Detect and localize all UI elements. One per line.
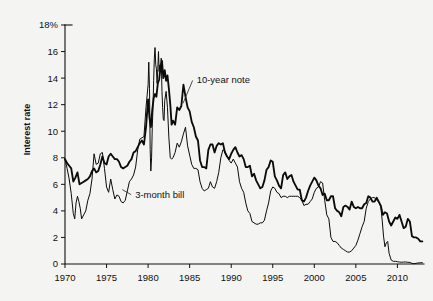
x-tick-label: 1995 [262,272,283,283]
y-axis-ticks: 024681012141618% [39,19,65,269]
x-tick-label: 1980 [138,272,159,283]
y-tick-label: 10 [47,126,58,137]
y-tick-label: 2 [53,232,58,243]
y-tick-label: 4 [53,205,58,216]
x-tick-label: 1970 [54,272,75,283]
x-tick-label: 2010 [387,272,408,283]
x-tick-label: 2000 [304,272,325,283]
y-tick-label: 14 [47,73,58,84]
interest-rate-chart-figure: 024681012141618% 19701975198019851990199… [0,0,433,301]
x-tick-label: 2005 [345,272,366,283]
y-tick-label: 16 [47,46,58,57]
x-axis-ticks: 197019751980198519901995200020052010 [54,264,408,283]
y-tick-label: 8 [53,152,58,163]
series-line-10-year-note [65,61,422,242]
x-tick-label: 1985 [179,272,200,283]
axes [65,25,424,264]
y-axis-title: Interest rate [22,104,32,156]
y-tick-label: 6 [53,179,58,190]
y-tick-label: 12 [47,99,58,110]
annotation-label: 10-year note [197,74,250,85]
y-tick-label: 18% [39,19,59,30]
y-axis-label: Interest rate [22,104,32,156]
chart-svg: 024681012141618% 19701975198019851990199… [0,0,433,301]
x-tick-label: 1975 [96,272,117,283]
axis-spine [65,25,424,264]
annotation-label: 3-month bill [135,189,184,200]
y-tick-label: 0 [53,258,58,269]
x-tick-label: 1990 [221,272,242,283]
